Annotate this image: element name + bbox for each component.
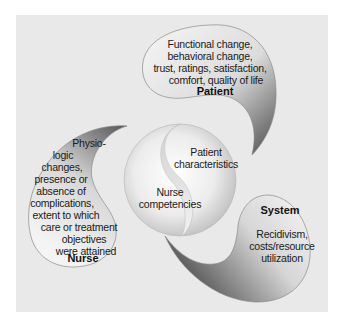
nurse-line: absence of (24, 185, 124, 197)
system-line: costs/resource (246, 240, 318, 252)
center-top-line: Patient (180, 146, 232, 158)
nurse-line: logic (24, 149, 124, 161)
center-top-line: characteristics (174, 158, 238, 170)
nurse-line: objectives (24, 233, 124, 245)
nurse-title: Nurse (58, 252, 108, 264)
patient-line: behavioral change, (140, 50, 280, 62)
system-title: System (250, 204, 310, 216)
nurse-competencies-label: Nurse competencies (140, 186, 200, 210)
nurse-line: presence or (24, 173, 124, 185)
system-line: utilization (246, 252, 318, 264)
patient-characteristics-label: Patient characteristics (180, 146, 232, 170)
system-outcomes-text: Recidivism, costs/resource utilization (246, 228, 318, 264)
patient-line: trust, ratings, satisfaction, (140, 62, 280, 74)
system-line: Recidivism, (246, 228, 318, 240)
nurse-line: extent to which (24, 209, 124, 221)
nurse-line: care or treatment (24, 221, 124, 233)
patient-outcomes-text: Functional change, behavioral change, tr… (140, 38, 280, 86)
patient-line: Functional change, (140, 38, 280, 50)
nurse-line: changes, (24, 161, 124, 173)
nurse-line: Physio- (24, 137, 124, 149)
patient-title: Patient (180, 85, 250, 97)
nurse-outcomes-text: Physio- logic changes, presence or absen… (24, 137, 124, 257)
center-bottom-line: Nurse (140, 186, 200, 198)
nurse-line: complications, (24, 197, 124, 209)
center-bottom-line: competencies (136, 198, 204, 210)
